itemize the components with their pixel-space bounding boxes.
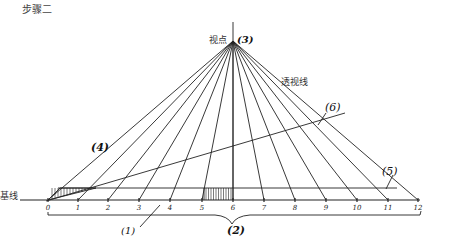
tick-label-5: 5 xyxy=(200,204,204,212)
perspective-line-7 xyxy=(233,41,264,200)
marker-2: (2) xyxy=(227,225,245,236)
perspective-line-10 xyxy=(233,41,357,200)
perspective-line-1 xyxy=(78,41,233,200)
perspective-line-2 xyxy=(108,41,233,200)
tick-label-11: 11 xyxy=(384,204,393,212)
tick-label-4: 4 xyxy=(168,204,172,212)
marker-4: (4) xyxy=(91,142,109,153)
step-title: 步骤二 xyxy=(22,5,52,15)
base-line-label: 基线 xyxy=(0,192,18,201)
tick-label-7: 7 xyxy=(262,204,266,212)
vanishing-point-marker: (3) xyxy=(237,35,253,45)
perspective-line-label: 透视线 xyxy=(281,78,308,87)
vanishing-point-label: 视点 xyxy=(209,36,227,45)
brace-2 xyxy=(48,211,421,224)
marker-6: (6) xyxy=(325,102,341,113)
tick-label-6: 6 xyxy=(231,204,235,212)
perspective-line-11 xyxy=(233,41,388,200)
perspective-line-9 xyxy=(233,41,326,200)
perspective-line-8 xyxy=(233,41,295,200)
perspective-line-0 xyxy=(48,41,233,200)
tick-label-2: 2 xyxy=(106,204,110,212)
tick-label-8: 8 xyxy=(293,204,297,212)
tick-label-10: 10 xyxy=(353,204,362,212)
perspective-line-4 xyxy=(170,41,233,200)
tick-label-9: 9 xyxy=(324,204,328,212)
marker-5: (5) xyxy=(382,166,398,177)
tick-label-3: 3 xyxy=(137,204,141,212)
leader-1 xyxy=(140,205,160,227)
tick-label-12: 12 xyxy=(414,204,423,212)
marker-1: (1) xyxy=(121,226,135,236)
tick-label-0: 0 xyxy=(46,204,50,212)
perspective-line-5 xyxy=(202,41,233,200)
tick-label-1: 1 xyxy=(76,204,80,212)
perspective-line-3 xyxy=(139,41,233,200)
